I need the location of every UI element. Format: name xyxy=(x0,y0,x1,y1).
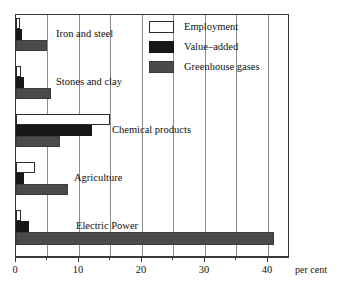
x-tick-40 xyxy=(267,257,268,262)
bar-agriculture-value-added xyxy=(16,173,24,184)
legend-label-employment: Employment xyxy=(184,21,238,33)
x-tick-10 xyxy=(78,257,79,262)
bar-electric-power-value-added xyxy=(16,221,29,232)
x-tick-label-40: 40 xyxy=(262,264,273,276)
bar-stones-and-clay-greenhouse-gases xyxy=(16,88,51,99)
bar-electric-power-greenhouse-gases xyxy=(16,232,274,245)
bar-chemical-products-employment xyxy=(16,114,110,125)
x-axis-unit-label: per cent xyxy=(295,264,327,276)
group-label-iron-and-steel: Iron and steel xyxy=(56,28,113,39)
bar-electric-power-employment xyxy=(16,210,21,221)
x-tick-label-0: 0 xyxy=(12,264,17,276)
bar-stones-and-clay-employment xyxy=(16,66,21,77)
bar-chemical-products-value-added xyxy=(16,125,92,136)
group-label-agriculture: Agriculture xyxy=(74,172,122,183)
x-tick-label-30: 30 xyxy=(199,264,210,276)
legend-swatch-employment xyxy=(149,21,174,33)
bar-iron-and-steel-employment xyxy=(16,18,20,29)
group-label-chemical-products: Chemical products xyxy=(112,124,191,135)
x-tick-label-20: 20 xyxy=(136,264,147,276)
legend-item-greenhouse-gases: Greenhouse gases xyxy=(149,59,281,75)
group-label-electric-power: Electric Power xyxy=(76,220,138,231)
bar-agriculture-employment xyxy=(16,162,35,173)
x-tick-0 xyxy=(15,257,16,262)
bar-agriculture-greenhouse-gases xyxy=(16,184,68,195)
bar-iron-and-steel-greenhouse-gases xyxy=(16,40,47,51)
legend-item-value-added: Value–added xyxy=(149,39,281,55)
legend-swatch-value-added xyxy=(149,41,174,53)
plot-area: Iron and steel Stones and clay Chemical … xyxy=(15,14,289,257)
group-label-stones-and-clay: Stones and clay xyxy=(56,76,122,87)
x-tick-20 xyxy=(141,257,142,262)
legend-swatch-greenhouse-gases xyxy=(149,61,174,73)
bar-iron-and-steel-value-added xyxy=(16,29,22,40)
chart-legend: Employment Value–added Greenhouse gases xyxy=(149,19,281,79)
x-tick-label-10: 10 xyxy=(73,264,84,276)
bar-chemical-products-greenhouse-gases xyxy=(16,136,60,147)
legend-label-greenhouse-gases: Greenhouse gases xyxy=(184,61,260,73)
x-axis-line xyxy=(15,257,289,258)
bar-stones-and-clay-value-added xyxy=(16,77,24,88)
gridline-20 xyxy=(142,15,143,256)
x-tick-30 xyxy=(204,257,205,262)
x-tick-5 xyxy=(46,257,47,260)
x-tick-15 xyxy=(109,257,110,260)
legend-item-employment: Employment xyxy=(149,19,281,35)
x-tick-35 xyxy=(235,257,236,260)
horizontal-bar-chart: Iron and steel Stones and clay Chemical … xyxy=(0,0,340,290)
legend-label-value-added: Value–added xyxy=(184,41,238,53)
x-tick-25 xyxy=(172,257,173,260)
